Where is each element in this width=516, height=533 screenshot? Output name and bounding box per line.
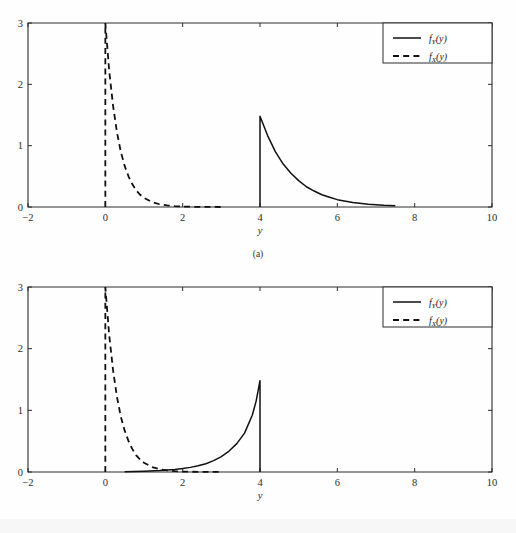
curve-fY: [260, 116, 395, 207]
x-axis-label: y: [257, 225, 263, 236]
x-tick-label: 0: [103, 212, 108, 223]
plot-area-b: −202468100123yfY(y)fX(y): [0, 266, 516, 506]
x-tick-label: 6: [335, 212, 340, 223]
y-tick-label: 3: [18, 18, 23, 29]
chart-a: −202468100123yfY(y)fX(y): [0, 0, 516, 266]
y-tick-label: 1: [18, 140, 23, 151]
x-tick-label: 2: [180, 477, 185, 488]
y-tick-label: 0: [18, 467, 23, 478]
x-tick-label: 0: [103, 477, 108, 488]
x-tick-label: 10: [487, 477, 498, 488]
curve-fX: [105, 23, 221, 207]
curve-fX: [105, 287, 221, 472]
x-tick-label: −2: [22, 212, 33, 223]
figure-page: −202468100123yfY(y)fX(y) (a) −2024681001…: [0, 0, 516, 533]
figure-b: −202468100123yfY(y)fX(y): [0, 266, 516, 533]
curve-fY: [125, 381, 260, 472]
y-tick-label: 1: [18, 405, 23, 416]
x-tick-label: −2: [22, 477, 33, 488]
plot-area-a: −202468100123yfY(y)fX(y): [0, 0, 516, 240]
figure-a-caption: (a): [0, 249, 516, 259]
y-tick-label: 0: [18, 202, 23, 213]
x-tick-label: 8: [412, 477, 417, 488]
x-axis-label: y: [257, 490, 263, 501]
y-tick-label: 2: [18, 79, 23, 90]
y-tick-label: 3: [18, 282, 23, 293]
chart-b: −202468100123yfY(y)fX(y): [0, 266, 516, 533]
x-tick-label: 4: [257, 477, 263, 488]
scan-artifact: [0, 519, 516, 533]
x-tick-label: 2: [180, 212, 185, 223]
figure-a: −202468100123yfY(y)fX(y) (a): [0, 0, 516, 266]
x-tick-label: 8: [412, 212, 417, 223]
y-tick-label: 2: [18, 343, 23, 354]
x-tick-label: 4: [257, 212, 263, 223]
x-tick-label: 10: [487, 212, 498, 223]
x-tick-label: 6: [335, 477, 340, 488]
